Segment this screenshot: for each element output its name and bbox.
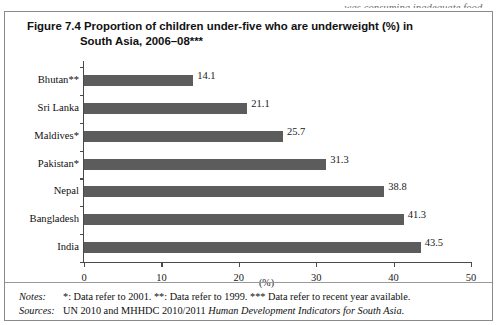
bar-row: 41.3 — [84, 206, 471, 234]
category-label: Pakistan* — [7, 158, 79, 169]
y-axis-tick — [80, 178, 85, 179]
bar — [84, 131, 283, 142]
footer-divider — [5, 282, 492, 283]
y-axis-tick — [80, 234, 85, 235]
y-axis-tick — [80, 206, 85, 207]
category-label: Bangladesh — [7, 213, 79, 224]
bar — [84, 159, 326, 170]
x-axis-tick — [161, 262, 162, 267]
figure-footer: Notes:*: Data refer to 2001. **: Data re… — [19, 290, 479, 318]
x-axis-tick — [394, 262, 395, 267]
notes-text: *: Data refer to 2001. **: Data refer to… — [63, 291, 410, 302]
category-label: Bhutan** — [7, 74, 79, 85]
bar-row: 31.3 — [84, 151, 471, 179]
x-axis-tick — [84, 262, 85, 267]
bar-row: 25.7 — [84, 123, 471, 151]
y-axis-tick — [80, 67, 85, 68]
bar-value-label: 31.3 — [330, 154, 348, 165]
x-axis-tick — [239, 262, 240, 267]
figure-title-line-2: South Asia, 2006–08*** — [27, 34, 467, 49]
sources-text: UN 2010 and MHHDC 2010/2011 — [63, 305, 208, 316]
chart-area: Bhutan**Sri LankaMaldives*Pakistan*Nepal… — [5, 59, 492, 283]
x-axis-line — [83, 262, 472, 263]
bar-value-label: 14.1 — [197, 70, 215, 81]
bar — [84, 214, 404, 225]
bar — [84, 242, 421, 253]
x-axis-tick — [316, 262, 317, 267]
sources-label: Sources: — [19, 304, 63, 318]
figure-container: Figure 7.4 Proportion of children under-… — [4, 11, 493, 321]
notes-label: Notes: — [19, 290, 63, 304]
category-label: Maldives* — [7, 130, 79, 141]
category-label: India — [7, 241, 79, 252]
figure-title-line-1: Figure 7.4 Proportion of children under-… — [27, 20, 413, 32]
bar-value-label: 21.1 — [251, 98, 269, 109]
bar-row: 38.8 — [84, 178, 471, 206]
category-label: Nepal — [7, 185, 79, 196]
bar — [84, 75, 193, 86]
plot-region: 14.121.125.731.338.841.343.5 01020304050 — [84, 67, 471, 262]
bar — [84, 186, 384, 197]
bar-row: 43.5 — [84, 234, 471, 262]
bar-value-label: 41.3 — [408, 209, 426, 220]
bar-row: 21.1 — [84, 95, 471, 123]
y-axis-tick — [80, 95, 85, 96]
category-axis-labels: Bhutan**Sri LankaMaldives*Pakistan*Nepal… — [5, 67, 79, 262]
page-running-text-label: was consuming inadequate food. — [344, 2, 485, 8]
y-axis-tick — [80, 151, 85, 152]
bar-value-label: 43.5 — [425, 237, 443, 248]
bar-value-label: 38.8 — [388, 181, 406, 192]
sources-publication-title: Human Development Indicators for South A… — [208, 305, 404, 316]
figure-title: Figure 7.4 Proportion of children under-… — [27, 19, 467, 49]
x-axis-tick — [471, 262, 472, 267]
bar — [84, 103, 247, 114]
page-running-text: was consuming inadequate food. — [0, 0, 497, 8]
bar-value-label: 25.7 — [287, 126, 305, 137]
sources-line: Sources:UN 2010 and MHHDC 2010/2011 Huma… — [19, 304, 479, 318]
y-axis-tick — [80, 123, 85, 124]
category-label: Sri Lanka — [7, 102, 79, 113]
bar-row: 14.1 — [84, 67, 471, 95]
notes-line: Notes:*: Data refer to 2001. **: Data re… — [19, 290, 479, 304]
